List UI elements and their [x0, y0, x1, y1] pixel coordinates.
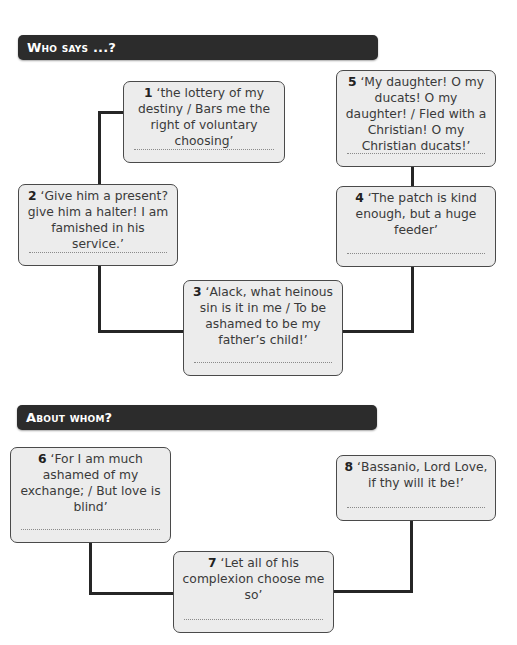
- quote-number: 4: [355, 191, 364, 205]
- answer-line-8[interactable]: [347, 507, 485, 508]
- quote-text: ‘Let all of his complexion choose me so’: [183, 556, 325, 602]
- quote-box-5: 5 ‘My daughter! O my ducats! O my daught…: [336, 70, 496, 167]
- connector-3-4-horizontal: [342, 330, 414, 333]
- connector-2-3-vertical: [98, 265, 101, 333]
- connector-5-4-vertical: [411, 166, 414, 187]
- answer-line-4[interactable]: [347, 253, 485, 254]
- answer-line-5[interactable]: [347, 153, 485, 154]
- quote-number: 5: [348, 75, 357, 89]
- quote-box-8: 8 ‘Bassanio, Lord Love, if thy will it b…: [336, 455, 496, 521]
- answer-line-7[interactable]: [184, 619, 323, 620]
- connector-6-7-vertical: [89, 542, 92, 595]
- answer-line-2[interactable]: [29, 252, 167, 253]
- answer-line-6[interactable]: [21, 529, 160, 530]
- quote-box-2: 2 ‘Give him a present? give him a halter…: [18, 184, 178, 266]
- quote-number: 8: [345, 460, 354, 474]
- connector-7-8-horizontal: [332, 590, 413, 593]
- connector-1-2-vertical: [98, 111, 101, 185]
- connector-4-3-vertical: [411, 266, 414, 333]
- connector-1-2-horizontal: [98, 111, 124, 114]
- quote-box-6: 6 ‘For I am much ashamed of my exchange;…: [10, 447, 171, 543]
- connector-2-3-horizontal: [98, 330, 184, 333]
- quote-box-1: 1 ‘the lottery of my destiny / Bars me t…: [123, 81, 285, 163]
- section-header-about-whom: About whom?: [17, 405, 377, 430]
- quote-number: 2: [28, 189, 37, 203]
- quote-box-3: 3 ‘Alack, what heinous sin is it in me /…: [183, 280, 343, 376]
- quote-box-7: 7 ‘Let all of his complexion choose me s…: [173, 551, 334, 633]
- quote-text: ‘The patch is kind enough, but a huge fe…: [356, 191, 477, 237]
- quote-number: 7: [208, 556, 217, 570]
- quote-number: 6: [38, 452, 47, 466]
- answer-line-1[interactable]: [134, 149, 274, 150]
- quote-number: 3: [193, 285, 202, 299]
- quote-text: ‘Bassanio, Lord Love, if thy will it be!…: [357, 460, 487, 490]
- quote-text: ‘Alack, what heinous sin is it in me / T…: [200, 285, 333, 347]
- quote-text: ‘the lottery of my destiny / Bars me the…: [138, 86, 270, 148]
- quote-number: 1: [144, 86, 153, 100]
- quote-text: ‘My daughter! O my ducats! O my daughter…: [346, 75, 486, 153]
- section-header-who-says: Who says ...?: [18, 35, 378, 60]
- connector-6-7-horizontal: [89, 592, 174, 595]
- quote-box-4: 4 ‘The patch is kind enough, but a huge …: [336, 186, 496, 267]
- quote-text: ‘Give him a present? give him a halter! …: [28, 189, 169, 251]
- connector-8-7-vertical: [410, 520, 413, 593]
- answer-line-3[interactable]: [194, 362, 332, 363]
